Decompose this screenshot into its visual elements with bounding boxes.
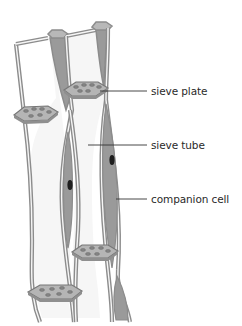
- label-companion-cell: companion cell: [151, 193, 229, 205]
- label-sieve-tube: sieve tube: [151, 139, 205, 151]
- phloem-illustration: [0, 0, 242, 326]
- nucleus-right: [109, 155, 114, 165]
- sieve-plate-bottom-right: [72, 245, 118, 261]
- phloem-diagram: sieve plate sieve tube companion cell: [0, 0, 242, 326]
- sieve-plate-bottom-left: [28, 285, 82, 302]
- nucleus-left: [67, 180, 72, 190]
- label-sieve-plate: sieve plate: [151, 85, 207, 97]
- companion-cell-middle-left: [64, 132, 73, 248]
